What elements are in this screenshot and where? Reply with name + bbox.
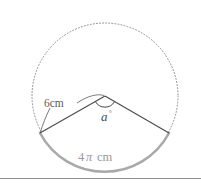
radius-label: 6cm: [44, 97, 64, 109]
angle-label-letter: a: [101, 109, 108, 124]
sector-diagram-figure: 6cm a ° 4 π cm: [0, 0, 201, 187]
angle-label-degree-symbol: °: [109, 109, 112, 117]
arc-length-label-pi: π: [86, 150, 93, 164]
arc-length-label-unit: cm: [97, 150, 113, 164]
sector-diagram-canvas: 6cm a ° 4 π cm: [0, 0, 201, 187]
arc-length-label-number: 4: [78, 150, 85, 164]
